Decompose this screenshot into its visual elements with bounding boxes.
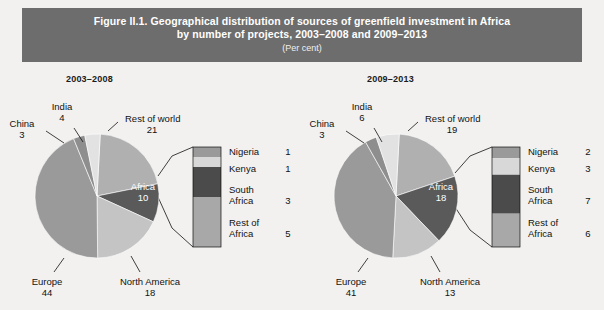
right-label-india-value: 6	[359, 112, 364, 123]
right-legend-south-africa-name-1: South	[528, 184, 553, 195]
right-tick-row	[408, 122, 418, 131]
right-legend-south-africa-name-2: Africa	[528, 195, 553, 206]
bar-segment-nigeria[interactable]	[492, 147, 520, 158]
right-label-rest-of-world-value: 19	[447, 124, 458, 135]
right-label-china-value: 3	[319, 129, 324, 140]
right-label-north-america-name: North America	[420, 276, 481, 287]
right-label-africa-name: Africa	[429, 181, 454, 192]
right-label-china-name: China	[310, 118, 336, 129]
right-label-europe-name: Europe	[336, 276, 367, 287]
right-legend-kenya-name: Kenya	[528, 163, 556, 174]
bar-segment-south-africa[interactable]	[492, 175, 520, 214]
right-label-north-america-value: 13	[445, 287, 456, 298]
right-legend-rest-of-africa-name-1: Rest of	[528, 217, 558, 228]
right-legend-rest-of-africa-value: 6	[585, 228, 590, 239]
right-panel-graphic: India 6 China 3 Rest of world 19 Africa …	[0, 0, 604, 310]
right-tick-na	[431, 256, 440, 272]
figure-container: Figure II.1. Geographical distribution o…	[0, 0, 604, 310]
right-callout-line-top	[455, 147, 492, 173]
right-label-rest-of-world-name: Rest of world	[425, 113, 480, 124]
right-legend-nigeria-name: Nigeria	[528, 146, 559, 157]
right-legend-kenya-value: 3	[585, 163, 590, 174]
right-callout-line-bottom	[455, 207, 492, 247]
right-africa-breakdown-bar	[492, 147, 520, 247]
right-label-africa-value: 18	[436, 192, 447, 203]
right-legend-nigeria-value: 2	[585, 146, 590, 157]
right-legend-rest-of-africa-name-2: Africa	[528, 228, 553, 239]
right-legend-south-africa-value: 7	[585, 195, 590, 206]
right-label-europe-value: 41	[346, 287, 357, 298]
right-tick-europe	[358, 258, 368, 272]
bar-segment-rest-of-africa[interactable]	[492, 214, 520, 247]
right-tick-china	[346, 131, 364, 143]
bar-segment-kenya[interactable]	[492, 158, 520, 175]
right-label-india-name: India	[352, 101, 373, 112]
